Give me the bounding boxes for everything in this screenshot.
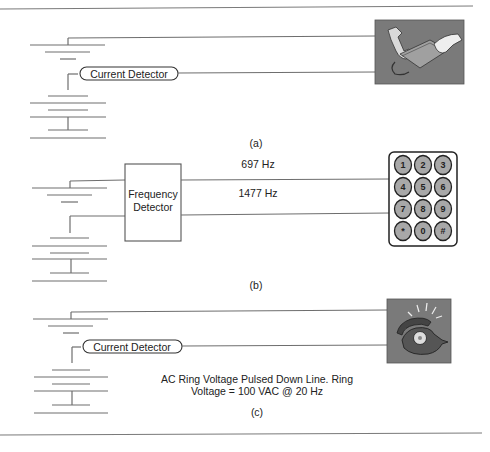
battery-top-a	[30, 36, 375, 59]
current-detector-label-a: Current Detector	[90, 68, 168, 80]
telephone-signaling-diagram: Current Detector (a)	[0, 0, 490, 452]
ring-note-line-1: AC Ring Voltage Pulsed Down Line. Ring	[161, 373, 353, 385]
keypad-key-label: #	[440, 226, 445, 236]
ring-note-line-2: Voltage = 100 VAC @ 20 Hz	[191, 385, 323, 397]
keypad-key-label: 3	[440, 160, 445, 170]
keypad-key-label: 4	[400, 182, 405, 192]
tone-697-label: 697 Hz	[241, 158, 274, 170]
panel-c: Current Detector	[33, 299, 451, 418]
panel-b: Frequency Detector 697 Hz 1477 Hz 123456…	[32, 152, 457, 291]
frequency-detector-label-1: Frequency	[128, 188, 178, 200]
battery-bottom-c	[34, 370, 108, 413]
caption-c: (c)	[251, 406, 263, 418]
caption-b: (b)	[250, 279, 263, 291]
frequency-detector: Frequency Detector	[125, 164, 181, 241]
keypad-key-label: *	[401, 226, 405, 236]
keypad-key-label: 1	[400, 160, 405, 170]
keypad-key-label: 0	[420, 226, 425, 236]
current-detector-a: Current Detector	[68, 67, 375, 90]
panel-a: Current Detector (a)	[30, 20, 464, 149]
line-697hz	[181, 179, 390, 180]
battery-bottom-a	[30, 96, 106, 138]
top-rule	[0, 6, 473, 9]
current-detector-c: Current Detector	[72, 340, 388, 363]
current-detector-label-c: Current Detector	[93, 341, 171, 353]
keypad-key-label: 2	[420, 160, 425, 170]
keypad-key-label: 6	[440, 182, 445, 192]
line-1477hz	[181, 213, 390, 215]
ringing-telephone-icon	[387, 299, 451, 363]
battery-top-c	[33, 310, 388, 333]
keypad-key-label: 8	[420, 204, 425, 214]
frequency-detector-label-2: Detector	[133, 201, 173, 213]
keypad-key-label: 7	[400, 204, 405, 214]
keypad-key-label: 5	[420, 182, 425, 192]
keypad-key-label: 9	[440, 204, 445, 214]
bottom-rule	[0, 433, 482, 435]
battery-top-b	[32, 180, 125, 202]
caption-a: (a)	[250, 137, 263, 149]
battery-bottom-b	[32, 216, 125, 281]
tone-1477-label: 1477 Hz	[238, 187, 277, 199]
dtmf-keypad-icon: 123456789*0#	[389, 152, 457, 246]
telephone-offhook-icon	[375, 20, 464, 84]
